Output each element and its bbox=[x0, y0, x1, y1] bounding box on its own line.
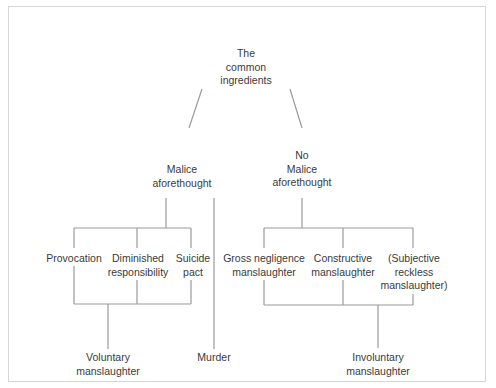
node-no-malice-aforethought: No Malice aforethought bbox=[273, 149, 332, 190]
node-murder: Murder bbox=[197, 351, 230, 365]
connector-root-malice bbox=[189, 89, 202, 128]
node-suicide-pact: Suicide pact bbox=[176, 252, 210, 279]
node-constructive-manslaughter: Constructive manslaughter bbox=[311, 252, 375, 279]
node-malice-aforethought: Malice aforethought bbox=[153, 163, 212, 190]
connector-root-no-malice bbox=[290, 89, 302, 128]
node-gross-negligence-manslaughter: Gross negligence manslaughter bbox=[223, 252, 305, 279]
node-voluntary-manslaughter: Voluntary manslaughter bbox=[76, 351, 140, 378]
node-provocation: Provocation bbox=[46, 252, 101, 266]
node-common-ingredients: The common ingredients bbox=[220, 47, 271, 88]
node-diminished-responsibility: Diminished responsibility bbox=[108, 252, 169, 279]
node-subjective-reckless-manslaughter: (Subjective reckless manslaughter) bbox=[380, 252, 447, 293]
node-involuntary-manslaughter: Involuntary manslaughter bbox=[346, 351, 410, 378]
